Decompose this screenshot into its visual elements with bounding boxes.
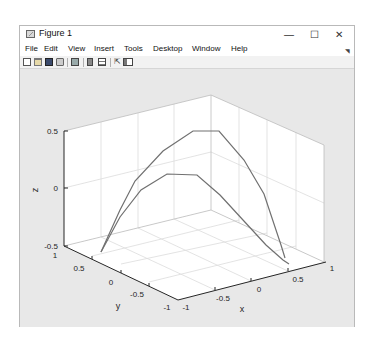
z-axis-label: z bbox=[30, 187, 40, 192]
x-tick-1: 1 bbox=[330, 264, 335, 273]
x-tick-neg1: -1 bbox=[182, 303, 190, 312]
z-tick-0.5: 0.5 bbox=[47, 127, 59, 136]
y-axis-label: y bbox=[116, 301, 121, 311]
z-tick-0: 0 bbox=[54, 184, 59, 193]
y-tick-neg1: -1 bbox=[163, 303, 171, 312]
axes-3d[interactable]: 0.5 0 -0.5 z 1 0.5 0 -0.5 -1 y -1 -0.5 0… bbox=[0, 0, 374, 348]
x-axis-label: x bbox=[240, 304, 245, 314]
x-tick-0.5: 0.5 bbox=[292, 275, 304, 284]
y-tick-neg0.5: -0.5 bbox=[130, 290, 144, 299]
y-tick-0: 0 bbox=[109, 278, 114, 287]
x-tick-0: 0 bbox=[257, 285, 262, 294]
y-tick-0.5: 0.5 bbox=[73, 264, 85, 273]
x-tick-neg0.5: -0.5 bbox=[216, 294, 230, 303]
y-tick-1: 1 bbox=[53, 251, 58, 260]
z-tick-neg0.5: -0.5 bbox=[44, 242, 58, 251]
